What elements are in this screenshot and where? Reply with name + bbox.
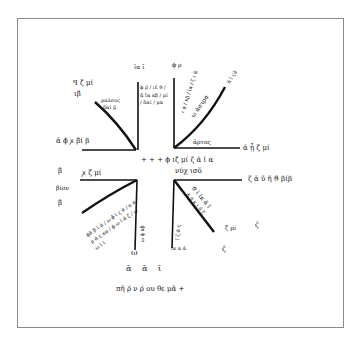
bottom-caption: πῆ ρ̂ ν ρ́ ου θε μᾶ + <box>116 286 184 293</box>
ll-left-label-c: β̄ <box>58 200 62 207</box>
ul-diagonal-label-2: δαί μ̄ <box>103 105 116 110</box>
center-text-line-1: + + + ϕ ιζ̄ μί ζ ᾱ ῑ α <box>141 157 213 164</box>
ul-left-label: ᾱ ϕ̄ ꭗ β̄ί β <box>56 138 89 145</box>
top-left-vertical-notes: ϕ ρ̄ / ιε̄ ϑ / ᾱ ῑα κβ / μί / δαί / μα <box>140 84 168 107</box>
ll-horizontal-label: ꭗ ζ̄ μί <box>82 170 102 177</box>
ul-top-sub-label: ιβ̄ <box>74 91 81 98</box>
lr-vertical-bottom-label: ῑκ α ά <box>171 246 186 251</box>
lr-right-label: ζ ᾱ ῦ ῆ ϑ βίβ <box>248 176 292 183</box>
ll-bottom-label: ω <box>131 249 138 257</box>
lr-far-label: ζ̄ μί <box>225 225 236 231</box>
ll-left-label-a: β̄ <box>58 168 62 175</box>
top-right-vertical-label: ϕ ρ <box>172 62 182 68</box>
ul-diagonal-label: μαλσος <box>101 98 120 103</box>
lr-far-label-2: ϛ̄ <box>255 222 259 229</box>
top-left-vertical-label: ῑα ῑ <box>134 64 145 70</box>
bottom-numerals: ᾱ ᾱ ῑ <box>126 265 165 273</box>
ul-top-label: ꟼ ζ̄ μί <box>73 80 93 87</box>
ur-right-label: ᾱ ᾗ ζ̄ μί <box>243 145 270 152</box>
ll-left-label-b: βίον <box>56 185 69 191</box>
ll-vertical-notes: ω ϕ κβ <box>140 225 145 242</box>
lr-diagonal-bottom-label: ϛ̄ <box>222 246 226 253</box>
ur-horizontal-label: ἀρτος <box>193 139 211 145</box>
center-text-line-2: νύχ ισō <box>175 168 202 175</box>
